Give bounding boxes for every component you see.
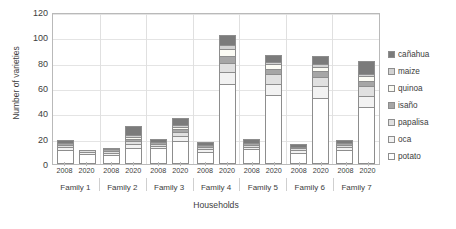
- bar-group: [146, 14, 193, 164]
- stacked-bar[interactable]: [265, 55, 282, 164]
- x-axis-year-label: 2008: [243, 166, 260, 182]
- stacked-bar[interactable]: [312, 56, 329, 164]
- legend-label: cañahua: [398, 50, 429, 59]
- x-axis-year-label: 2008: [290, 166, 307, 182]
- x-axis-family-label: Family 7: [333, 183, 380, 197]
- legend-swatch-icon: [388, 136, 395, 143]
- x-axis-year-label: 2020: [78, 166, 95, 182]
- x-axis-year-label: 2020: [265, 166, 282, 182]
- x-tick-group: 20082020: [146, 166, 193, 182]
- y-axis-tick: 100: [33, 33, 48, 43]
- legend-item-oca[interactable]: oca: [388, 131, 456, 148]
- bar-segment-potato[interactable]: [151, 149, 166, 163]
- stacked-bar[interactable]: [243, 139, 260, 164]
- x-axis-family-label: Family 3: [146, 183, 193, 197]
- legend-item-papalisa[interactable]: papalisa: [388, 114, 456, 131]
- bar-segment-quinoa[interactable]: [220, 50, 235, 57]
- legend-item-potato[interactable]: potato: [388, 148, 456, 165]
- legend-label: potato: [398, 152, 421, 161]
- y-axis-tick: 60: [38, 84, 48, 94]
- legend-label: isaño: [398, 101, 418, 110]
- bar-segment-papalisa[interactable]: [359, 87, 374, 96]
- legend-label: papalisa: [398, 118, 429, 127]
- y-axis-tick-labels: 020406080100120: [22, 13, 48, 165]
- x-axis-year-label: 2008: [103, 166, 120, 182]
- legend-swatch-icon: [388, 68, 395, 75]
- legend-label: maize: [398, 67, 420, 76]
- legend-label: oca: [398, 135, 411, 144]
- x-tick-group: 20082020: [286, 166, 333, 182]
- bar-segment-oca[interactable]: [220, 73, 235, 85]
- legend-label: quinoa: [398, 84, 423, 93]
- stacked-bar[interactable]: [125, 126, 142, 164]
- bar-segment-potato[interactable]: [359, 108, 374, 163]
- bar-segment-potato[interactable]: [220, 85, 235, 163]
- stacked-bar[interactable]: [57, 140, 74, 164]
- bar-group: [53, 14, 100, 164]
- stacked-bar[interactable]: [150, 139, 167, 164]
- bar-segment-cañahua[interactable]: [359, 62, 374, 75]
- x-axis-tick-labels: 2008202020082020200820202008202020082020…: [52, 166, 380, 182]
- bar-group: [239, 14, 286, 164]
- stacked-bar[interactable]: [336, 140, 353, 164]
- x-axis-year-label: 2020: [312, 166, 329, 182]
- stacked-bar[interactable]: [358, 61, 375, 164]
- bar-segment-potato[interactable]: [266, 96, 281, 163]
- legend-item-quinoa[interactable]: quinoa: [388, 80, 456, 97]
- stacked-bar[interactable]: [197, 142, 214, 164]
- bar-segment-papalisa[interactable]: [266, 75, 281, 84]
- x-tick-group: 20082020: [193, 166, 240, 182]
- y-axis-title: Number of varieties: [11, 23, 21, 143]
- bar-segment-cañahua[interactable]: [266, 56, 281, 63]
- legend-item-isaño[interactable]: isaño: [388, 97, 456, 114]
- stacked-bar[interactable]: [172, 118, 189, 164]
- bar-segment-cañahua[interactable]: [313, 57, 328, 65]
- y-axis-tick: 20: [38, 135, 48, 145]
- bar-segment-potato[interactable]: [173, 142, 188, 163]
- x-axis-family-label: Family 2: [99, 183, 146, 197]
- x-axis-year-label: 2020: [125, 166, 142, 182]
- legend-item-maize[interactable]: maize: [388, 63, 456, 80]
- bar-series-area: [53, 14, 379, 164]
- x-tick-group: 20082020: [99, 166, 146, 182]
- x-tick-group: 20082020: [52, 166, 99, 182]
- y-axis-tick: 40: [38, 109, 48, 119]
- x-axis-year-label: 2020: [359, 166, 376, 182]
- bar-group: [286, 14, 333, 164]
- y-axis-tick: 80: [38, 59, 48, 69]
- bar-group: [332, 14, 379, 164]
- bar-segment-isaño[interactable]: [220, 57, 235, 64]
- bar-segment-oca[interactable]: [266, 85, 281, 97]
- x-axis-title: Households: [52, 200, 380, 210]
- x-axis-family-label: Family 6: [286, 183, 333, 197]
- stacked-bar[interactable]: [290, 144, 307, 164]
- bar-segment-potato[interactable]: [126, 149, 141, 163]
- legend-swatch-icon: [388, 85, 395, 92]
- x-axis-year-label: 2008: [150, 166, 167, 182]
- bar-segment-cañahua[interactable]: [126, 127, 141, 136]
- x-axis-year-label: 2008: [56, 166, 73, 182]
- x-axis-family-label: Family 1: [52, 183, 99, 197]
- x-axis-group-labels: Family 1Family 2Family 3Family 4Family 5…: [52, 183, 380, 197]
- x-tick-group: 20082020: [239, 166, 286, 182]
- bar-segment-oca[interactable]: [359, 97, 374, 109]
- x-axis-year-label: 2008: [197, 166, 214, 182]
- y-axis-tick: 120: [33, 8, 48, 18]
- legend-item-cañahua[interactable]: cañahua: [388, 46, 456, 63]
- x-tick-group: 20082020: [333, 166, 380, 182]
- bar-group: [193, 14, 240, 164]
- bar-segment-papalisa[interactable]: [220, 64, 235, 73]
- legend-swatch-icon: [388, 119, 395, 126]
- x-axis-family-label: Family 5: [239, 183, 286, 197]
- bar-segment-oca[interactable]: [313, 87, 328, 99]
- x-axis-year-label: 2020: [219, 166, 236, 182]
- bar-group: [100, 14, 147, 164]
- y-axis-tick: 0: [43, 160, 48, 170]
- stacked-bar[interactable]: [219, 35, 236, 164]
- x-axis-year-label: 2020: [172, 166, 189, 182]
- bar-segment-papalisa[interactable]: [313, 78, 328, 87]
- bar-segment-potato[interactable]: [313, 99, 328, 164]
- bar-segment-cañahua[interactable]: [220, 36, 235, 47]
- legend-swatch-icon: [388, 51, 395, 58]
- legend-swatch-icon: [388, 102, 395, 109]
